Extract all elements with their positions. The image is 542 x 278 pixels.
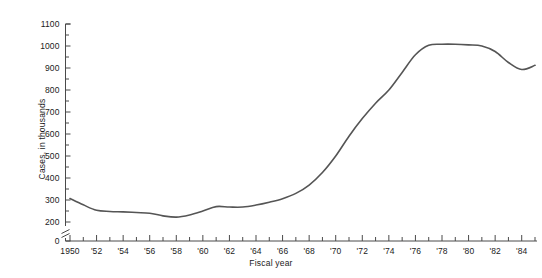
y-tick-label: 600 [45,129,60,139]
data-series-line [70,44,535,217]
x-tick-label: '66 [277,246,289,256]
chart-container: Cases, in thousands Fiscal year 20030040… [0,0,542,278]
x-tick-label: '84 [516,246,528,256]
x-tick-label: '82 [489,246,501,256]
y-axis-break-mark [62,230,70,234]
y-tick-label: 300 [45,195,60,205]
y-tick-label: 700 [45,107,60,117]
x-tick-label: '68 [303,246,315,256]
x-tick-label: '62 [224,246,236,256]
x-tick-label: '64 [250,246,262,256]
y-tick-label: 1100 [41,19,60,29]
y-tick-label: 500 [45,151,60,161]
x-tick-label: '74 [383,246,395,256]
x-tick-label: 1950 [60,246,79,256]
y-tick-label: 800 [45,85,60,95]
y-tick-label-zero: 0 [55,236,60,246]
y-axis-break-mark [62,234,70,238]
y-tick-label: 900 [45,63,60,73]
y-tick-label: 200 [45,217,60,227]
x-tick-label: '72 [357,246,369,256]
x-tick-label: '52 [91,246,103,256]
x-tick-label: '54 [117,246,129,256]
x-tick-label: '80 [463,246,475,256]
y-tick-label: 400 [45,173,60,183]
x-tick-label: '60 [197,246,209,256]
y-tick-label: 1000 [40,41,59,51]
x-tick-label: '76 [410,246,422,256]
x-tick-label: '78 [436,246,448,256]
x-tick-label: '58 [171,246,183,256]
x-tick-label: '70 [330,246,342,256]
line-plot: 2003004005006007008009001000110001950'52… [0,0,542,278]
x-tick-label: '56 [144,246,156,256]
